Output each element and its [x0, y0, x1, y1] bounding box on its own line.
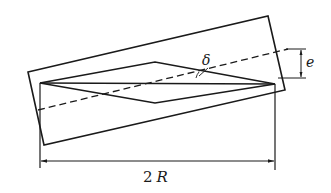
dimension-e-label: e [306, 54, 314, 70]
angle-delta-label: δ [202, 52, 210, 68]
dimension-2R-label: 2R [143, 168, 168, 186]
diagram-canvas: δ 2R e [0, 0, 331, 193]
dimension-2R-symbol: R [156, 168, 168, 186]
horizontal-axis [40, 83, 275, 84]
dimension-2R-number: 2 [143, 168, 153, 186]
angle-arc [196, 72, 199, 78]
